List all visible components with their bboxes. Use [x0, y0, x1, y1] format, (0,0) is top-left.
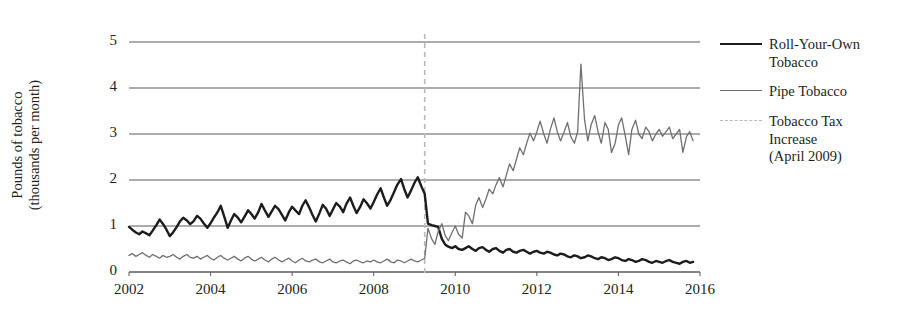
- y-tick-label-3: 3: [91, 124, 117, 141]
- legend-label-ryo-line1: Roll-Your-Own: [769, 36, 860, 54]
- x-tick-label-2008: 2008: [344, 281, 404, 298]
- legend-item-tobacco-tax-increase: Tobacco Tax Increase (April 2009): [718, 113, 898, 166]
- y-axis-title-line1: Pounds of tobacco: [9, 80, 26, 210]
- y-axis-title: Pounds of tobacco (thousands per month): [6, 0, 46, 290]
- y-tick-label-0: 0: [91, 262, 117, 279]
- legend-label-tax-line2: Increase: [769, 131, 843, 149]
- series-line-roll-your-own-tobacco: [129, 177, 693, 263]
- x-tick-label-2010: 2010: [425, 281, 485, 298]
- x-tick-label-2014: 2014: [588, 281, 648, 298]
- legend-line-swatch-pipe-icon: [718, 83, 762, 99]
- x-tick-label-2006: 2006: [262, 281, 322, 298]
- legend-label-pipe-line1: Pipe Tobacco: [769, 83, 847, 101]
- x-tick-label-2002: 2002: [99, 281, 159, 298]
- legend-label-tax-line3: (April 2009): [769, 148, 843, 166]
- y-tick-label-5: 5: [91, 32, 117, 49]
- x-tick-label-2012: 2012: [507, 281, 567, 298]
- gridlines: [129, 42, 700, 272]
- legend-item-pipe-tobacco: Pipe Tobacco: [718, 83, 898, 101]
- chart-legend: Roll-Your-Own Tobacco Pipe Tobacco Tobac…: [718, 36, 898, 178]
- legend-item-roll-your-own-tobacco: Roll-Your-Own Tobacco: [718, 36, 898, 71]
- y-axis-title-line2: (thousands per month): [26, 80, 43, 210]
- tobacco-trend-chart: Pounds of tobacco (thousands per month) …: [0, 0, 904, 320]
- x-tick-label-2016: 2016: [670, 281, 730, 298]
- y-tick-label-2: 2: [91, 170, 117, 187]
- y-tick-label-4: 4: [91, 78, 117, 95]
- legend-dashed-swatch-tax-icon: [718, 113, 762, 129]
- legend-label-tax-line1: Tobacco Tax: [769, 113, 843, 131]
- y-tick-label-1: 1: [91, 216, 117, 233]
- legend-label-ryo-line2: Tobacco: [769, 54, 860, 72]
- legend-line-swatch-ryo-icon: [718, 36, 762, 52]
- series-line-pipe-tobacco: [129, 64, 693, 264]
- series-lines: [129, 64, 693, 264]
- x-tick-label-2004: 2004: [181, 281, 241, 298]
